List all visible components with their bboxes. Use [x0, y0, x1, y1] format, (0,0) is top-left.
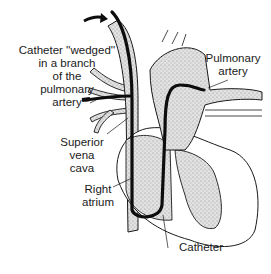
label-superior-vena-cava: Superior vena cava [46, 136, 118, 175]
aortic-branches [162, 30, 186, 46]
label-catheter: Catheter [168, 241, 234, 254]
label-catheter-wedged: Catheter ''wedged'' in a branch of the p… [2, 44, 132, 109]
heart-catheter-diagram [0, 0, 271, 274]
label-pulmonary-artery: Pulmonary artery [198, 52, 268, 78]
pulmonary-branch-right [205, 110, 262, 116]
label-right-atrium: Right atrium [78, 183, 118, 209]
